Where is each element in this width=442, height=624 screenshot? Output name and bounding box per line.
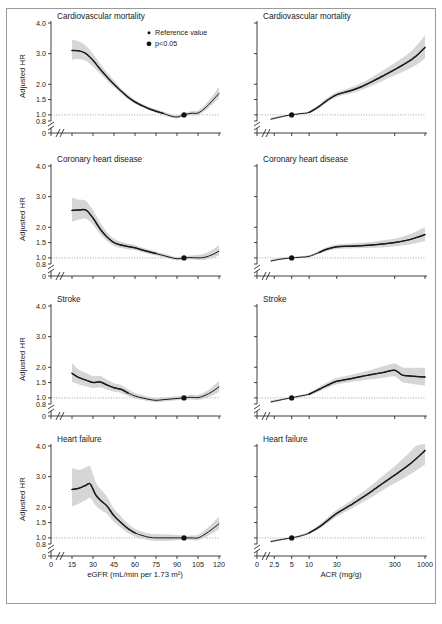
x-tick-label-heart-failure-egfr-8: 120 (213, 560, 225, 569)
y-tick-label-stroke-egfr-2: 1.0 (36, 393, 46, 402)
x-tick-label-heart-failure-egfr-6: 90 (173, 560, 181, 569)
reference-point-coronary-heart-disease-acr (289, 255, 294, 260)
y-tick-label-stroke-egfr-5: 3.0 (36, 332, 46, 341)
y-axis-break-upper-heart-failure-acr (254, 545, 260, 549)
reference-point-coronary-heart-disease-egfr (181, 255, 186, 260)
panel-title-stroke-egfr: Stroke (57, 295, 81, 304)
y-tick-label-cvd-mortality-egfr-5: 3.0 (36, 49, 46, 58)
y-tick-label-cvd-mortality-egfr-4: 2.0 (36, 80, 46, 89)
y-tick-label-cvd-mortality-egfr-0: 0 (42, 129, 46, 138)
reference-point-stroke-egfr (181, 395, 186, 400)
x-tick-label-heart-failure-acr-2: 5 (290, 560, 294, 569)
x-tick-label-heart-failure-acr-3: 10 (305, 560, 313, 569)
panel-title-cvd-mortality-egfr: Cardiovascular mortality (57, 12, 146, 21)
y-tick-label-heart-failure-egfr-0: 0 (42, 552, 46, 561)
y-tick-label-stroke-egfr-3: 1.5 (36, 378, 46, 387)
y-tick-label-heart-failure-egfr-3: 1.5 (36, 518, 46, 527)
x-tick-label-heart-failure-acr-4: 30 (333, 560, 341, 569)
x-tick-label-heart-failure-egfr-1: 15 (68, 560, 76, 569)
y-axis-title-stroke-egfr: Adjusted HR (18, 337, 27, 381)
panel-title-heart-failure-acr: Heart failure (263, 435, 308, 444)
y-axis-title-coronary-heart-disease-egfr: Adjusted HR (18, 197, 27, 241)
y-axis-title-heart-failure-egfr: Adjusted HR (18, 477, 27, 521)
legend-marker-p-significant (147, 41, 152, 46)
panel-title-heart-failure-egfr: Heart failure (57, 435, 102, 444)
hr-curve-thin-cvd-mortality-acr (271, 48, 425, 120)
reference-point-cvd-mortality-egfr (181, 112, 186, 117)
y-axis-break-upper-heart-failure-egfr (48, 545, 54, 549)
x-tick-label-heart-failure-acr-5: 300 (389, 560, 401, 569)
panel-title-coronary-heart-disease-acr: Coronary heart disease (263, 155, 349, 164)
y-axis-break-upper-cvd-mortality-egfr (48, 122, 54, 126)
x-axis-title-heart-failure-egfr: eGFR (mL/min per 1.73 m²) (87, 570, 183, 579)
legend: Reference valuep<0.05 (147, 28, 208, 48)
x-axis-title-heart-failure-acr: ACR (mg/g) (320, 570, 362, 579)
confidence-band-coronary-heart-disease-acr (271, 227, 425, 262)
panel-coronary-heart-disease-acr: Coronary heart disease (254, 155, 427, 280)
y-tick-label-coronary-heart-disease-egfr-5: 3.0 (36, 192, 46, 201)
legend-label-reference-value: Reference value (155, 28, 207, 37)
y-axis-break-upper-coronary-heart-disease-acr (254, 265, 260, 269)
y-tick-label-coronary-heart-disease-egfr-3: 1.5 (36, 238, 46, 247)
panel-coronary-heart-disease-egfr: Coronary heart disease00.81.01.52.03.04.… (18, 155, 221, 281)
panel-stroke-acr: Stroke (254, 295, 427, 420)
y-axis-title-cvd-mortality-egfr: Adjusted HR (18, 54, 27, 98)
y-tick-label-cvd-mortality-egfr-2: 1.0 (36, 110, 46, 119)
x-tick-label-heart-failure-egfr-3: 45 (110, 560, 118, 569)
x-tick-label-heart-failure-egfr-5: 75 (152, 560, 160, 569)
panel-title-stroke-acr: Stroke (263, 295, 287, 304)
confidence-band-heart-failure-acr (271, 444, 425, 543)
y-axis-break-upper-coronary-heart-disease-egfr (48, 265, 54, 269)
y-tick-label-stroke-egfr-0: 0 (42, 412, 46, 421)
y-tick-label-cvd-mortality-egfr-3: 1.5 (36, 95, 46, 104)
figure-root: Cardiovascular mortality00.81.01.52.03.0… (0, 0, 442, 624)
x-tick-label-heart-failure-egfr-7: 105 (192, 560, 204, 569)
x-tick-label-heart-failure-acr-0: 0 (255, 560, 259, 569)
y-tick-label-coronary-heart-disease-egfr-6: 4.0 (36, 162, 46, 171)
y-tick-label-heart-failure-egfr-2: 1.0 (36, 533, 46, 542)
y-axis-break-upper-stroke-acr (254, 405, 260, 409)
y-tick-label-coronary-heart-disease-egfr-4: 2.0 (36, 223, 46, 232)
x-tick-label-heart-failure-acr-6: 1000 (417, 560, 433, 569)
panel-heart-failure-egfr: Heart failure00.81.01.52.03.04.0Adjusted… (18, 435, 225, 579)
x-tick-label-heart-failure-egfr-2: 30 (89, 560, 97, 569)
y-tick-label-heart-failure-egfr-4: 2.0 (36, 503, 46, 512)
confidence-band-heart-failure-egfr (72, 466, 219, 541)
legend-label-p-significant: p<0.05 (155, 39, 177, 48)
multi-panel-chart: Cardiovascular mortality00.81.01.52.03.0… (7, 9, 435, 603)
reference-point-cvd-mortality-acr (289, 112, 294, 117)
y-tick-label-cvd-mortality-egfr-6: 4.0 (36, 19, 46, 28)
reference-point-stroke-acr (289, 395, 294, 400)
panel-heart-failure-acr: Heart failure02.5510303001000ACR (mg/g) (254, 435, 433, 579)
y-tick-label-heart-failure-egfr-6: 4.0 (36, 442, 46, 451)
legend-marker-reference-value (148, 31, 151, 34)
y-tick-label-stroke-egfr-4: 2.0 (36, 363, 46, 372)
y-tick-label-coronary-heart-disease-egfr-0: 0 (42, 272, 46, 281)
panel-stroke-egfr: Stroke00.81.01.52.03.04.0Adjusted HR (18, 295, 221, 421)
x-tick-label-heart-failure-egfr-0: 0 (49, 560, 53, 569)
panel-title-coronary-heart-disease-egfr: Coronary heart disease (57, 155, 143, 164)
x-tick-label-heart-failure-acr-1: 2.5 (269, 560, 279, 569)
confidence-band-cvd-mortality-acr (271, 35, 425, 120)
panel-cvd-mortality-acr: Cardiovascular mortality (254, 12, 427, 137)
y-tick-label-heart-failure-egfr-5: 3.0 (36, 472, 46, 481)
panel-title-cvd-mortality-acr: Cardiovascular mortality (263, 12, 352, 21)
x-tick-label-heart-failure-egfr-4: 60 (131, 560, 139, 569)
y-tick-label-coronary-heart-disease-egfr-2: 1.0 (36, 253, 46, 262)
y-tick-label-stroke-egfr-6: 4.0 (36, 302, 46, 311)
figure-frame: Cardiovascular mortality00.81.01.52.03.0… (6, 8, 436, 604)
y-axis-break-upper-stroke-egfr (48, 405, 54, 409)
y-axis-break-upper-cvd-mortality-acr (254, 122, 260, 126)
reference-point-heart-failure-egfr (181, 535, 186, 540)
reference-point-heart-failure-acr (289, 535, 294, 540)
